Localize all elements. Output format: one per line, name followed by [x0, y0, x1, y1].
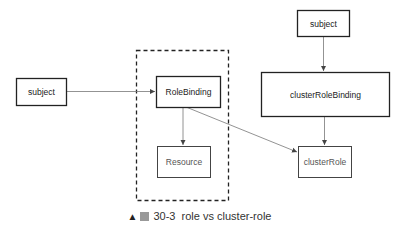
figure-number: 30-3	[153, 210, 175, 222]
node-clusterrole-label: clusterRole	[304, 157, 347, 167]
node-resource-label: Resource	[166, 157, 203, 167]
node-subject-left: subject	[17, 79, 67, 106]
node-clusterrolebinding-label: clusterRoleBinding	[290, 90, 361, 100]
figure-caption: ▲30-3 role vs cluster-role	[0, 210, 399, 222]
node-resource: Resource	[158, 147, 211, 178]
node-clusterrolebinding: clusterRoleBinding	[262, 73, 390, 117]
node-subject-left-label: subject	[28, 87, 56, 97]
node-rolebinding-label: RoleBinding	[166, 87, 212, 97]
figure-caption-text: role vs cluster-role	[182, 210, 272, 222]
node-subject-right: subject	[298, 11, 350, 37]
diagram-canvas: subject RoleBinding Resource subject clu…	[0, 0, 399, 232]
node-clusterrole: clusterRole	[299, 147, 352, 178]
triangle-up-icon: ▲	[128, 211, 138, 222]
figure-glyph-icon	[140, 212, 149, 221]
node-rolebinding: RoleBinding	[157, 77, 221, 108]
node-subject-right-label: subject	[310, 19, 338, 29]
